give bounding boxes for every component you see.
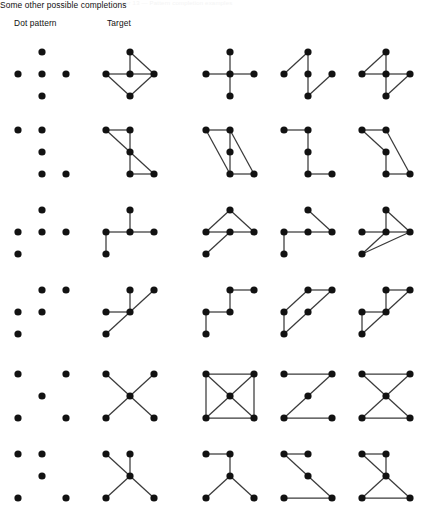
column-header-completions: Some other possible completions — [0, 0, 126, 10]
pattern-dot — [202, 308, 209, 315]
dot-pattern-row-2 — [10, 122, 86, 184]
pattern-dot — [406, 170, 413, 177]
pattern-edge — [130, 290, 154, 312]
pattern-dot — [102, 250, 109, 257]
completion-3-row-4 — [354, 282, 430, 344]
pattern-edge — [362, 312, 386, 334]
target-pattern-row-3 — [98, 202, 174, 264]
pattern-dot — [358, 228, 365, 235]
column-header-dot-pattern: Dot pattern — [14, 18, 57, 28]
pattern-dot — [304, 170, 311, 177]
pattern-edge — [106, 476, 130, 498]
pattern-dot — [226, 126, 233, 133]
pattern-dot — [382, 70, 389, 77]
pattern-edge — [386, 290, 410, 312]
completion-3-row-3 — [354, 202, 430, 264]
pattern-dot — [358, 70, 365, 77]
pattern-dot — [126, 286, 133, 293]
pattern-dot — [358, 308, 365, 315]
pattern-dot — [328, 228, 335, 235]
pattern-dot — [226, 70, 233, 77]
pattern-dot — [126, 450, 133, 457]
pattern-dot — [250, 494, 257, 501]
pattern-dot — [102, 494, 109, 501]
pattern-dot — [382, 48, 389, 55]
dot-pattern-row-6 — [10, 446, 86, 508]
pattern-dot — [280, 250, 287, 257]
pattern-edge — [284, 290, 308, 312]
pattern-dot — [358, 370, 365, 377]
pattern-dot — [202, 70, 209, 77]
completion-3-row-2 — [354, 122, 430, 184]
pattern-edge — [106, 130, 130, 152]
pattern-dot — [382, 126, 389, 133]
pattern-dot — [202, 330, 209, 337]
pattern-dot — [14, 494, 21, 501]
pattern-dot — [102, 370, 109, 377]
pattern-dot — [202, 450, 209, 457]
completion-1-row-3 — [198, 202, 274, 264]
pattern-edge — [130, 476, 154, 498]
pattern-dot — [328, 70, 335, 77]
pattern-dot — [150, 370, 157, 377]
pattern-edge — [386, 374, 410, 396]
pattern-edge — [106, 454, 130, 476]
pattern-dot — [280, 126, 287, 133]
pattern-edge — [386, 396, 410, 418]
pattern-dot — [102, 414, 109, 421]
pattern-dot — [226, 450, 233, 457]
pattern-dot — [126, 308, 133, 315]
pattern-dot — [250, 170, 257, 177]
pattern-dot — [280, 450, 287, 457]
pattern-dot — [406, 494, 413, 501]
pattern-dot — [304, 206, 311, 213]
pattern-dot — [62, 228, 69, 235]
pattern-dot — [38, 286, 45, 293]
target-pattern-row-4 — [98, 282, 174, 344]
pattern-dot — [38, 308, 45, 315]
pattern-dot — [280, 70, 287, 77]
pattern-edge — [106, 312, 130, 334]
pattern-dot — [304, 48, 311, 55]
completion-2-row-2 — [276, 122, 352, 184]
pattern-dot — [150, 170, 157, 177]
completion-3-row-1 — [354, 44, 430, 106]
target-pattern-row-1 — [98, 44, 174, 106]
pattern-dot — [250, 286, 257, 293]
pattern-dot — [126, 472, 133, 479]
pattern-edge — [308, 476, 332, 498]
pattern-dot — [62, 170, 69, 177]
pattern-edge — [206, 476, 230, 498]
pattern-dot — [38, 48, 45, 55]
pattern-dot — [250, 228, 257, 235]
completion-2-row-1 — [276, 44, 352, 106]
pattern-dot — [382, 472, 389, 479]
pattern-dot — [102, 70, 109, 77]
target-pattern-row-6 — [98, 446, 174, 508]
pattern-dot — [328, 494, 335, 501]
pattern-dot — [62, 370, 69, 377]
pattern-edge — [362, 374, 386, 396]
completion-1-row-6 — [198, 446, 274, 508]
pattern-dot — [14, 308, 21, 315]
pattern-dot — [382, 392, 389, 399]
completion-2-row-4 — [276, 282, 352, 344]
pattern-dot — [126, 228, 133, 235]
dot-pattern-row-3 — [10, 202, 86, 264]
pattern-dot — [14, 126, 21, 133]
target-pattern-row-5 — [98, 366, 174, 428]
pattern-dot — [202, 494, 209, 501]
pattern-dot — [304, 450, 311, 457]
pattern-dot — [226, 392, 233, 399]
pattern-edge — [230, 210, 254, 232]
pattern-dot — [226, 228, 233, 235]
pattern-dot — [406, 70, 413, 77]
pattern-dot — [62, 494, 69, 501]
pattern-dot — [250, 414, 257, 421]
pattern-edge — [284, 396, 308, 418]
pattern-dot — [14, 370, 21, 377]
pattern-edge — [362, 52, 386, 74]
pattern-dot — [304, 392, 311, 399]
pattern-edge — [362, 476, 386, 498]
pattern-dot — [38, 148, 45, 155]
